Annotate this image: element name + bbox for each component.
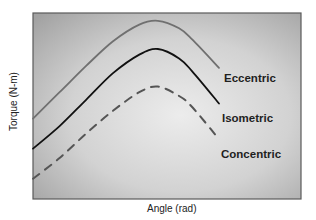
x-axis-label: Angle (rad)	[147, 203, 196, 214]
chart-canvas	[0, 0, 316, 220]
concentric-label: Concentric	[221, 148, 281, 160]
eccentric-label: Eccentric	[224, 72, 276, 84]
isometric-label: Isometric	[222, 112, 273, 124]
y-axis-label: Torque (N-m)	[8, 67, 19, 137]
plot-area	[33, 13, 301, 199]
